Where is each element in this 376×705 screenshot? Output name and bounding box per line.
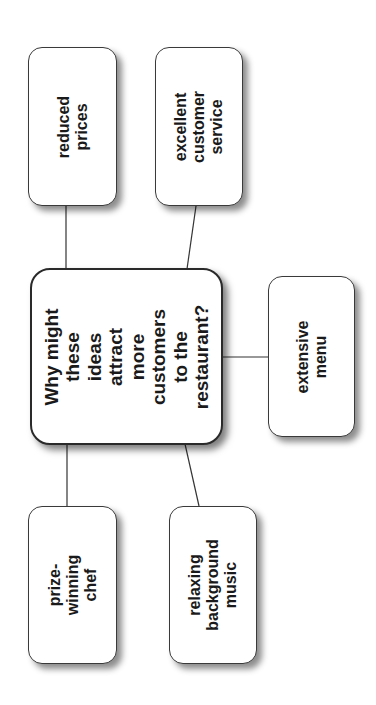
idea-box-relaxing-background-music: relaxing background music xyxy=(169,506,257,664)
idea-label-reduced-prices: reduced prices xyxy=(55,95,91,157)
idea-box-extensive-menu: extensive menu xyxy=(268,276,355,437)
idea-box-excellent-customer-service: excellent customer service xyxy=(155,47,243,206)
central-question-label: Why might these ideas attract more custo… xyxy=(41,304,213,409)
idea-box-reduced-prices: reduced prices xyxy=(28,47,117,206)
connector-excellent-customer-service xyxy=(187,206,196,269)
idea-box-prize-winning-chef: prize-winning chef xyxy=(28,506,117,664)
idea-label-excellent-customer-service: excellent customer service xyxy=(172,90,226,162)
idea-label-prize-winning-chef: prize-winning chef xyxy=(46,555,100,615)
idea-label-relaxing-background-music: relaxing background music xyxy=(186,539,240,631)
idea-label-extensive-menu: extensive menu xyxy=(294,320,330,393)
central-question-box: Why might these ideas attract more custo… xyxy=(30,268,223,445)
connector-relaxing-background-music xyxy=(185,444,199,506)
